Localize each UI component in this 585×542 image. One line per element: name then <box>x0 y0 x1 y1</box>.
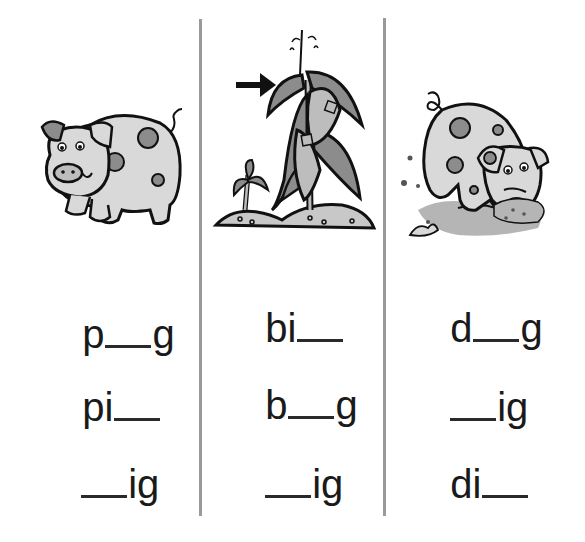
column-divider-right <box>383 18 386 516</box>
word-prompt[interactable]: di <box>428 424 529 504</box>
word-suffix: g <box>520 306 542 350</box>
word-suffix: ig <box>312 462 343 506</box>
fill-in-blank[interactable] <box>473 339 519 342</box>
word-prefix: pi <box>82 385 113 429</box>
word-suffix: ig <box>128 462 159 506</box>
fill-in-blank[interactable] <box>81 495 127 498</box>
word-prompt[interactable]: bg <box>243 345 358 425</box>
word-prompt[interactable]: ig <box>427 347 528 427</box>
word-prefix: d <box>450 306 472 350</box>
digging-pig-icon <box>398 90 558 245</box>
fill-in-blank[interactable] <box>114 418 160 421</box>
pig-icon <box>30 95 195 235</box>
word-prompt[interactable]: ig <box>58 424 159 504</box>
word-suffix: g <box>335 383 357 427</box>
word-suffix: ig <box>497 385 528 429</box>
fill-in-blank[interactable] <box>297 339 343 342</box>
word-prompt[interactable]: dg <box>428 268 543 348</box>
fill-in-blank[interactable] <box>265 495 311 498</box>
word-prefix: di <box>450 462 481 506</box>
big-plant-icon <box>212 20 380 235</box>
fill-in-blank[interactable] <box>288 416 334 419</box>
word-prefix: b <box>265 383 287 427</box>
column-divider-left <box>199 19 202 516</box>
word-prefix: bi <box>265 306 296 350</box>
word-prompt[interactable]: pi <box>60 347 161 427</box>
word-prompt[interactable]: bi <box>243 268 344 348</box>
fill-in-blank[interactable] <box>450 418 496 421</box>
word-prompt[interactable]: pg <box>60 274 175 354</box>
fill-in-blank[interactable] <box>482 495 528 498</box>
word-prompt[interactable]: ig <box>242 424 343 504</box>
